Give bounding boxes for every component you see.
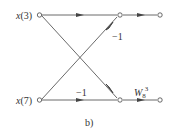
- twiddle-factor-label: W83: [134, 85, 149, 100]
- weight-bottom-label: −1: [76, 87, 87, 98]
- node-mid-bottom: [118, 98, 122, 102]
- input-label-top: x(3): [15, 10, 32, 22]
- weight-cross-label: −1: [112, 31, 123, 42]
- edge-bottom-output: [123, 98, 157, 102]
- figure-caption: b): [85, 117, 93, 129]
- butterfly-diagram: x(3) x(7) −1 −1 W83 b): [0, 0, 177, 131]
- edge-top-straight: [42, 13, 117, 17]
- edge-top-output: [123, 13, 157, 17]
- edge-top-to-bottom: [42, 16, 117, 98]
- node-output-bottom: [158, 98, 162, 102]
- input-label-bottom: x(7): [15, 95, 32, 107]
- node-output-top: [158, 13, 162, 17]
- node-mid-top: [118, 13, 122, 17]
- node-input-bottom: [37, 98, 41, 102]
- node-input-top: [37, 13, 41, 17]
- edge-bottom-straight: [42, 98, 117, 102]
